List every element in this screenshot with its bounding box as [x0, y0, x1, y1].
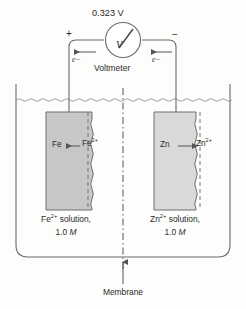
positive-terminal-label: +: [66, 28, 72, 40]
zn-ion-label: Zn2+: [196, 139, 212, 148]
negative-terminal-label: −: [172, 29, 178, 41]
solution-waterline: [16, 99, 232, 102]
voltmeter-symbol: V: [116, 39, 122, 51]
voltage-reading: 0.323 V: [92, 8, 124, 19]
fe-ion-label: Fe2+: [82, 139, 98, 148]
fe-metal-label: Fe: [52, 140, 62, 149]
zn-metal-label: Zn: [160, 140, 170, 149]
galvanic-cell-figure: 0.323 V V Voltmeter + − e− e− Fe Fe2+ Zn…: [0, 0, 246, 309]
fe-concentration-label: 1.0 M: [28, 228, 104, 238]
zn-concentration-label: 1.0 M: [136, 228, 214, 238]
zn-solution-label: Zn2+ solution,: [136, 215, 214, 225]
electron-label-left: e−: [72, 56, 81, 65]
voltmeter-label: Voltmeter: [94, 64, 130, 74]
zn-electrode: [154, 112, 200, 210]
voltmeter-dial[interactable]: [106, 23, 141, 58]
membrane-label: Membrane: [85, 288, 161, 298]
fe-solution-label: Fe2+ solution,: [28, 215, 104, 225]
cell-diagram-svg: [0, 0, 246, 309]
fe-electrode: [46, 112, 93, 210]
electron-label-right: e−: [152, 56, 161, 65]
